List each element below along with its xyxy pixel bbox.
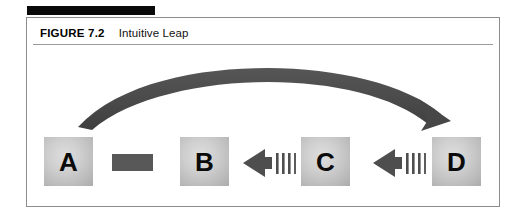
node-box-c: C <box>301 137 350 186</box>
figure-caption: FIGURE 7.2 Intuitive Leap <box>40 24 188 42</box>
top-black-rule <box>27 6 155 15</box>
figure-container: FIGURE 7.2 Intuitive Leap <box>0 0 527 222</box>
node-box-b: B <box>180 137 229 186</box>
node-label-c: C <box>316 149 335 175</box>
figure-number-label: FIGURE 7.2 <box>40 27 105 39</box>
node-box-a: A <box>44 137 93 186</box>
caption-divider <box>33 44 493 45</box>
node-box-d: D <box>432 137 481 186</box>
connector-bar-a-b <box>112 154 153 171</box>
node-label-d: D <box>447 149 466 175</box>
node-label-a: A <box>59 149 78 175</box>
figure-frame <box>26 17 500 207</box>
figure-title: Intuitive Leap <box>119 27 189 39</box>
node-label-b: B <box>195 149 214 175</box>
